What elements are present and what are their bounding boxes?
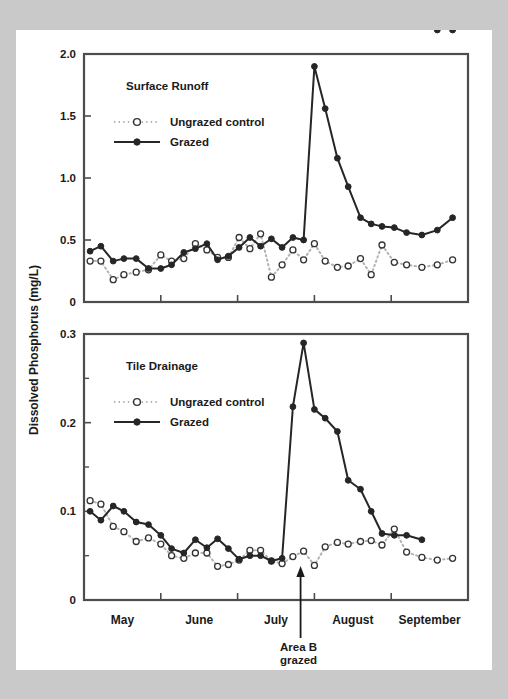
panel-surface-runoff: 00.51.01.52.0Surface RunoffUngrazed cont… bbox=[60, 48, 468, 308]
data-point bbox=[269, 558, 275, 564]
data-point bbox=[279, 555, 285, 561]
data-point bbox=[334, 539, 340, 545]
data-point bbox=[345, 184, 351, 190]
data-point bbox=[181, 550, 187, 556]
data-point bbox=[450, 257, 456, 263]
data-point bbox=[236, 245, 242, 251]
data-point bbox=[133, 519, 139, 525]
data-point bbox=[158, 541, 164, 547]
data-point bbox=[419, 264, 425, 270]
data-point bbox=[335, 429, 341, 435]
data-point bbox=[368, 538, 374, 544]
data-point bbox=[226, 546, 232, 552]
panel-title: Tile Drainage bbox=[126, 360, 198, 372]
data-point bbox=[379, 242, 385, 248]
data-point bbox=[158, 266, 164, 272]
data-point bbox=[279, 245, 285, 251]
data-point bbox=[258, 231, 264, 237]
data-point bbox=[434, 262, 440, 268]
data-point bbox=[133, 256, 139, 262]
phosphorus-figure: Dissolved Phosphorus (mg/L) 00.51.01.52.… bbox=[16, 30, 492, 670]
legend-label-ungrazed: Ungrazed control bbox=[170, 396, 265, 408]
data-point bbox=[268, 274, 274, 280]
data-point bbox=[290, 235, 296, 241]
data-point bbox=[236, 235, 242, 241]
data-point bbox=[225, 562, 231, 568]
legend-marker-ungrazed bbox=[134, 399, 141, 406]
legend-label-grazed: Grazed bbox=[170, 136, 209, 148]
annotation-line-1: Area B bbox=[280, 641, 317, 653]
data-point bbox=[133, 269, 139, 275]
data-point bbox=[158, 252, 164, 258]
data-point bbox=[215, 257, 221, 263]
data-point bbox=[358, 539, 364, 545]
y-tick-label: 1.0 bbox=[60, 172, 76, 184]
y-tick-label: 0.2 bbox=[60, 417, 76, 429]
data-point bbox=[301, 340, 307, 346]
data-point bbox=[345, 477, 351, 483]
data-point bbox=[121, 508, 127, 514]
data-point bbox=[345, 541, 351, 547]
x-month-label: August bbox=[332, 613, 373, 627]
data-point bbox=[290, 404, 296, 410]
data-point bbox=[358, 256, 364, 262]
data-point bbox=[258, 243, 264, 249]
y-tick-label: 0 bbox=[70, 296, 76, 308]
data-point bbox=[322, 544, 328, 550]
data-point bbox=[301, 257, 307, 263]
data-point bbox=[404, 262, 410, 268]
data-point bbox=[215, 536, 221, 542]
data-point bbox=[98, 258, 104, 264]
data-point bbox=[87, 498, 93, 504]
annotation-line-2: grazed bbox=[280, 654, 317, 666]
data-point bbox=[192, 550, 198, 556]
legend-label-grazed: Grazed bbox=[170, 416, 209, 428]
data-point bbox=[146, 535, 152, 541]
legend-marker-grazed bbox=[134, 419, 140, 425]
data-point bbox=[169, 553, 175, 559]
data-point bbox=[121, 272, 127, 278]
data-point bbox=[121, 256, 127, 262]
data-point bbox=[290, 554, 296, 560]
y-tick-label: 0.3 bbox=[60, 328, 76, 340]
data-point bbox=[301, 237, 307, 243]
data-point bbox=[279, 262, 285, 268]
data-point bbox=[290, 247, 296, 253]
data-point bbox=[236, 556, 242, 562]
y-tick-label: 0.1 bbox=[60, 505, 77, 517]
data-point bbox=[391, 532, 397, 538]
data-point bbox=[87, 248, 93, 254]
data-point bbox=[121, 529, 127, 535]
data-point bbox=[434, 557, 440, 563]
data-point bbox=[193, 246, 199, 252]
data-point bbox=[450, 30, 456, 33]
data-point bbox=[87, 508, 93, 514]
data-point bbox=[322, 258, 328, 264]
legend-label-ungrazed: Ungrazed control bbox=[170, 116, 265, 128]
data-point bbox=[419, 554, 425, 560]
data-point bbox=[110, 258, 116, 264]
data-point bbox=[87, 258, 93, 264]
data-point bbox=[169, 546, 175, 552]
y-axis-title: Dissolved Phosphorus (mg/L) bbox=[27, 265, 41, 435]
data-point bbox=[247, 246, 253, 252]
data-point bbox=[368, 508, 374, 514]
data-point bbox=[334, 264, 340, 270]
data-point bbox=[419, 232, 425, 238]
data-point bbox=[98, 243, 104, 249]
data-point bbox=[181, 250, 187, 256]
data-point bbox=[204, 241, 210, 247]
x-month-label: September bbox=[399, 613, 461, 627]
data-point bbox=[146, 522, 152, 528]
data-point bbox=[204, 545, 210, 551]
data-point bbox=[258, 553, 264, 559]
data-point bbox=[379, 224, 385, 230]
data-point bbox=[391, 225, 397, 231]
y-tick-label: 1.5 bbox=[60, 110, 77, 122]
data-point bbox=[434, 227, 440, 233]
data-point bbox=[322, 106, 328, 112]
data-point bbox=[193, 537, 199, 543]
data-point bbox=[379, 542, 385, 548]
data-point bbox=[247, 235, 253, 241]
data-point bbox=[312, 407, 318, 413]
